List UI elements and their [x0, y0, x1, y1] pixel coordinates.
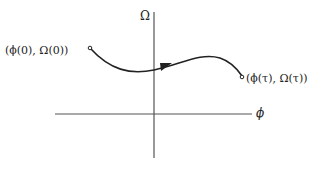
start-point-marker	[88, 46, 92, 50]
end-point-label: (ϕ(τ), Ω(τ))	[246, 72, 308, 85]
end-point-marker	[240, 75, 244, 79]
phase-diagram: Ω ϕ (ϕ(0), Ω(0)) (ϕ(τ), Ω(τ))	[0, 0, 327, 170]
trajectory-curve	[90, 48, 242, 76]
start-point-label: (ϕ(0), Ω(0))	[5, 44, 68, 57]
direction-arrow-icon	[160, 63, 172, 71]
phi-axis-label: ϕ	[256, 106, 264, 120]
omega-axis-label: Ω	[140, 9, 150, 23]
